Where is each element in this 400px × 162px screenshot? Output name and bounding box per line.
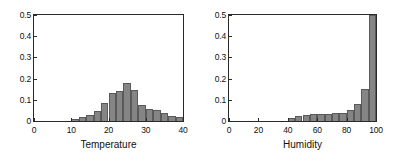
chart-panel-humidity: 00.10.20.30.40.5 020406080100 Humidity xyxy=(200,0,400,162)
y-tick-label: 0.5 xyxy=(20,10,31,20)
histogram-bar xyxy=(123,83,130,121)
chart-panel-temperature: 00.10.20.30.40.5 010203040 Temperature xyxy=(0,0,200,162)
histogram-bar xyxy=(168,116,175,121)
y-tick-label: 0.1 xyxy=(20,95,31,105)
histogram-bar xyxy=(288,118,295,121)
histogram-bar xyxy=(176,117,183,121)
histogram-bar xyxy=(86,115,93,121)
x-tick-mark xyxy=(71,118,72,121)
histogram-bar xyxy=(347,110,354,121)
y-tick-mark xyxy=(229,15,232,16)
y-tick-mark xyxy=(229,121,232,122)
x-tick-mark xyxy=(347,118,348,121)
histogram-bar xyxy=(116,91,123,121)
x-tick-label: 0 xyxy=(32,125,37,135)
histogram-bar xyxy=(295,116,302,121)
x-tick-label: 10 xyxy=(67,125,76,135)
x-tick-label: 40 xyxy=(178,125,187,135)
y-tick-mark xyxy=(229,100,232,101)
y-tick-label: 0.2 xyxy=(20,74,31,84)
x-tick-mark xyxy=(183,118,184,121)
histogram-bar xyxy=(369,15,376,121)
x-tick-label: 60 xyxy=(313,125,322,135)
x-tick-mark xyxy=(258,118,259,121)
x-tick-mark xyxy=(34,118,35,121)
histogram-bar xyxy=(339,113,346,121)
x-tick-mark xyxy=(317,118,318,121)
y-tick-label: 0.1 xyxy=(215,95,226,105)
y-tick-mark xyxy=(34,79,37,80)
histogram-bar xyxy=(138,105,145,121)
y-tick-label: 0.2 xyxy=(215,74,226,84)
y-tick-mark xyxy=(34,36,37,37)
y-tick-mark xyxy=(34,15,37,16)
x-tick-label: 20 xyxy=(104,125,113,135)
x-tick-label: 0 xyxy=(227,125,232,135)
x-axis-title-temperature: Temperature xyxy=(80,139,136,150)
histogram-bar xyxy=(310,114,317,121)
y-tick-label: 0.5 xyxy=(215,10,226,20)
x-tick-label: 100 xyxy=(369,125,383,135)
histogram-bar xyxy=(361,89,368,121)
histogram-bar xyxy=(131,90,138,121)
histogram-bar xyxy=(94,111,101,121)
x-tick-label: 40 xyxy=(283,125,292,135)
figure-histograms: 00.10.20.30.40.5 010203040 Temperature 0… xyxy=(0,0,400,162)
x-tick-mark xyxy=(109,118,110,121)
plot-area-humidity xyxy=(228,14,377,122)
histogram-bar xyxy=(317,114,324,121)
histogram-bar xyxy=(354,104,361,121)
x-tick-mark xyxy=(146,118,147,121)
x-tick-mark xyxy=(229,118,230,121)
histogram-bar xyxy=(79,117,86,121)
y-tick-mark xyxy=(229,36,232,37)
bar-series-temperature xyxy=(34,15,183,121)
histogram-bar xyxy=(101,103,108,121)
histogram-bar xyxy=(109,93,116,121)
histogram-bar xyxy=(71,119,78,121)
bar-series-humidity xyxy=(229,15,376,121)
y-tick-mark xyxy=(229,79,232,80)
y-tick-label: 0 xyxy=(221,116,226,126)
histogram-bar xyxy=(153,110,160,121)
x-axis-title-humidity: Humidity xyxy=(283,139,322,150)
y-tick-mark xyxy=(34,121,37,122)
histogram-bar xyxy=(146,109,153,122)
y-tick-label: 0.4 xyxy=(215,31,226,41)
x-tick-label: 30 xyxy=(141,125,150,135)
histogram-bar xyxy=(325,114,332,121)
x-tick-mark xyxy=(288,118,289,121)
y-tick-label: 0.3 xyxy=(20,52,31,62)
histogram-bar xyxy=(332,113,339,121)
y-tick-label: 0.4 xyxy=(20,31,31,41)
x-tick-label: 80 xyxy=(342,125,351,135)
y-tick-label: 0 xyxy=(26,116,31,126)
histogram-bar xyxy=(161,113,168,121)
x-tick-mark xyxy=(376,118,377,121)
y-tick-label: 0.3 xyxy=(215,52,226,62)
histogram-bar xyxy=(303,115,310,121)
plot-area-temperature xyxy=(33,14,184,122)
y-tick-mark xyxy=(34,57,37,58)
y-tick-mark xyxy=(34,100,37,101)
y-tick-mark xyxy=(229,57,232,58)
x-tick-label: 20 xyxy=(254,125,263,135)
